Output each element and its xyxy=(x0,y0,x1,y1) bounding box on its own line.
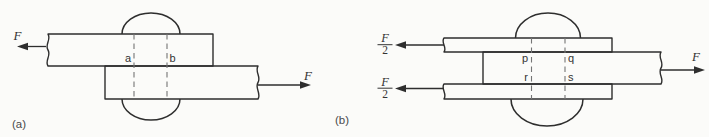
force-label-left: F xyxy=(13,28,23,43)
arrowhead-right-icon xyxy=(694,66,705,73)
rivet-head-bottom xyxy=(511,99,583,126)
force-arrow-right xyxy=(661,66,705,73)
caption-a: (a) xyxy=(12,118,26,130)
diagram-b-butt-joint: F 2 F 2 F p q r s xyxy=(335,13,705,126)
section-label-s: s xyxy=(568,71,574,83)
arrowhead-top-left-icon xyxy=(395,41,406,48)
joint-diagrams-svg: F F a b (a) xyxy=(0,0,709,137)
force-label-right: F xyxy=(303,68,313,83)
fraction-numerator: F xyxy=(380,31,389,45)
fraction-denominator: 2 xyxy=(382,88,388,100)
force-fraction-top: F 2 xyxy=(378,31,393,56)
diagram-a-lap-joint: F F a b (a) xyxy=(12,13,313,130)
fraction-numerator: F xyxy=(380,75,389,89)
section-label-a: a xyxy=(125,52,132,64)
force-label-right: F xyxy=(691,49,701,64)
rivet-head-bottom xyxy=(122,99,180,120)
section-label-p: p xyxy=(522,52,528,64)
section-label-b: b xyxy=(170,52,176,64)
lower-plate xyxy=(105,66,259,99)
rivet-head-top xyxy=(516,13,581,38)
force-arrow-left xyxy=(17,43,46,50)
rivet-head-top xyxy=(122,13,180,34)
arrowhead-left-icon xyxy=(17,43,28,50)
section-label-q: q xyxy=(568,52,574,64)
force-arrow-top-left xyxy=(395,41,444,48)
force-fraction-bottom: F 2 xyxy=(378,75,393,100)
force-arrow-bottom-left xyxy=(395,85,444,92)
riveted-joint-figure: F F a b (a) xyxy=(0,0,709,137)
arrowhead-bottom-left-icon xyxy=(395,85,406,92)
top-cover-plate xyxy=(443,38,612,52)
fraction-denominator: 2 xyxy=(382,44,388,56)
bottom-cover-plate xyxy=(443,84,612,99)
caption-b: (b) xyxy=(335,114,349,126)
section-label-r: r xyxy=(524,71,528,83)
